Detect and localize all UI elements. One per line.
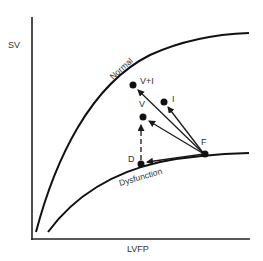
point-vi-label: V+I	[140, 76, 154, 86]
point-i	[161, 99, 168, 106]
normal-curve	[36, 33, 249, 232]
dysfunction-curve	[48, 153, 249, 232]
dysfunction-curve-label: Dysfunction	[118, 166, 164, 188]
point-f	[202, 151, 209, 158]
arrow-f-to-vi	[138, 90, 204, 154]
point-f-label: F	[201, 137, 207, 147]
point-d-label: D	[128, 154, 135, 164]
arrow-f-to-v	[149, 121, 204, 154]
arrow-f-to-i	[168, 107, 204, 154]
frank-starling-diagram: SV LVFP Normal Dysfunction F D V V+I I	[0, 0, 263, 261]
x-axis-label: LVFP	[127, 244, 149, 254]
arrow-f-to-d	[147, 154, 204, 162]
point-v	[140, 114, 147, 121]
y-axis-label: SV	[8, 40, 20, 50]
point-v-label: V	[139, 99, 145, 109]
point-d	[138, 161, 145, 168]
normal-curve-label: Normal	[108, 56, 135, 82]
point-i-label: I	[172, 94, 175, 104]
point-vi	[130, 82, 137, 89]
